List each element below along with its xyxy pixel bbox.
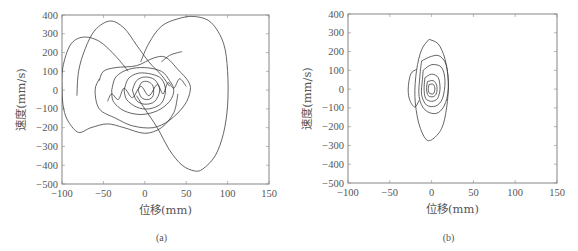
phase-trajectory-line — [415, 39, 449, 140]
x-tick-label: 150 — [549, 187, 565, 198]
x-tick-label: 100 — [220, 188, 236, 199]
y-tick-label: −200 — [322, 121, 344, 132]
y-tick-label: 400 — [42, 10, 58, 21]
y-tick-label: −200 — [36, 122, 58, 133]
phase-trajectory-line — [408, 69, 419, 107]
x-tick-label: −50 — [382, 187, 398, 198]
y-tick-label: −100 — [36, 103, 58, 114]
x-axis-label: 位移(mm) — [426, 202, 479, 216]
phase-trajectory-line — [138, 81, 154, 99]
y-tick-label: 300 — [328, 27, 344, 38]
x-tick-label: 50 — [468, 187, 479, 198]
phase-trajectory-line — [428, 84, 435, 94]
phase-trajectory-line — [421, 65, 445, 107]
y-tick-label: 100 — [42, 66, 58, 77]
plot-area-frame — [62, 15, 269, 184]
panel-caption: (a) — [156, 232, 167, 244]
panel-caption: (b) — [443, 232, 455, 244]
y-axis-label: 速度(mm/s) — [14, 68, 28, 131]
y-tick-label: −100 — [322, 102, 344, 113]
x-tick-label: −100 — [337, 187, 359, 198]
x-tick-label: −50 — [95, 188, 111, 199]
y-tick-label: 300 — [42, 28, 58, 39]
series-group — [62, 16, 228, 171]
plot-area-frame — [348, 14, 557, 183]
phase-trajectory-line — [95, 56, 190, 128]
phase-trajectory-line — [137, 16, 229, 171]
phase-trajectory-line — [108, 79, 187, 102]
y-tick-label: −300 — [36, 141, 58, 152]
x-tick-label: −100 — [51, 188, 73, 199]
x-tick-label: 50 — [181, 188, 192, 199]
y-tick-label: −400 — [36, 160, 58, 171]
y-tick-label: −400 — [322, 159, 344, 170]
x-tick-label: 0 — [429, 187, 434, 198]
y-tick-label: 100 — [328, 65, 344, 76]
y-tick-label: 0 — [53, 85, 58, 96]
y-tick-label: −300 — [322, 140, 344, 151]
y-tick-label: 200 — [42, 47, 58, 58]
y-tick-label: 200 — [328, 46, 344, 57]
y-tick-label: 0 — [339, 84, 344, 95]
phase-plot-figure: −100−500501001504003002001000−100−200−30… — [0, 0, 578, 251]
y-tick-label: −500 — [36, 179, 58, 190]
x-tick-label: 100 — [507, 187, 523, 198]
y-axis-label: 速度(mm/s) — [300, 67, 314, 130]
y-tick-label: −500 — [322, 178, 344, 189]
y-tick-label: 400 — [328, 9, 344, 20]
chart-panel-a: −100−500501001504003002001000−100−200−30… — [14, 10, 277, 245]
chart-panel-b: −100−500501001504003002001000−100−200−30… — [300, 9, 565, 245]
x-axis-label: 位移(mm) — [139, 203, 192, 217]
x-tick-label: 150 — [261, 188, 277, 199]
x-tick-label: 0 — [142, 188, 147, 199]
phase-trajectory-line — [62, 37, 178, 133]
series-group — [408, 39, 448, 140]
